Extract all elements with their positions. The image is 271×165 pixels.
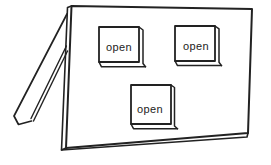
prop-stick-inner-edge xyxy=(31,46,66,119)
flap-top-left: open xyxy=(99,27,146,67)
flap-label: open xyxy=(106,41,132,53)
illustration-canvas: open open open xyxy=(0,0,271,165)
flap-top-right: open xyxy=(175,26,222,66)
board-with-flaps-drawing: open open open xyxy=(0,0,271,165)
flap-label: open xyxy=(183,40,209,52)
flap-bottom-center: open xyxy=(131,85,178,129)
flap-label: open xyxy=(137,103,163,115)
board-front-face xyxy=(66,6,252,148)
prop-stick xyxy=(14,14,68,125)
